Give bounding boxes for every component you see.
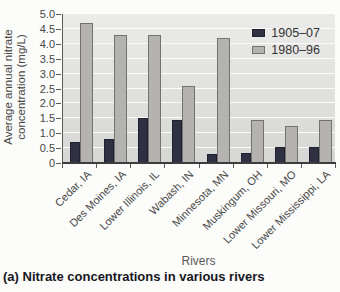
- bar-series-0-cat-3: [172, 120, 182, 163]
- legend-swatch-1: [252, 46, 265, 54]
- y-tick-mark: [56, 133, 61, 134]
- x-tick-label-text: Muskingum, OH: [200, 168, 264, 232]
- x-tick-mark: [199, 164, 200, 168]
- legend: 1905–071980–96: [252, 26, 320, 60]
- x-tick-mark: [96, 164, 97, 168]
- plot-area: 1905–071980–96: [62, 14, 335, 163]
- y-tick-label: 4.0: [0, 38, 55, 50]
- y-tick-mark: [56, 44, 61, 45]
- bar-series-0-cat-6: [275, 147, 285, 163]
- bar-series-1-cat-0: [80, 23, 93, 163]
- y-tick-label: 1.0: [0, 127, 55, 139]
- x-tick-mark: [62, 164, 63, 168]
- bar-series-0-cat-0: [70, 142, 80, 163]
- legend-item-0: 1905–07: [252, 26, 320, 40]
- x-tick-mark: [267, 164, 268, 168]
- bar-series-0-cat-1: [104, 139, 114, 163]
- y-tick-mark: [56, 29, 61, 30]
- y-tick-label: 3.5: [0, 53, 55, 65]
- legend-label-1: 1980–96: [271, 43, 320, 57]
- bar-series-1-cat-1: [114, 35, 127, 163]
- y-axis-tick-labels: 00.51.01.52.02.53.03.54.04.55.0: [0, 14, 55, 163]
- bar-series-0-cat-7: [309, 147, 319, 163]
- y-tick-label: 0.5: [0, 142, 55, 154]
- legend-item-1: 1980–96: [252, 43, 320, 57]
- y-tick-label: 4.5: [0, 23, 55, 35]
- gridline: [62, 102, 335, 103]
- x-axis-title: Rivers: [62, 254, 335, 268]
- bar-series-1-cat-3: [182, 86, 195, 163]
- y-tick-mark: [56, 103, 61, 104]
- gridline: [62, 73, 335, 74]
- y-tick-mark: [56, 118, 61, 119]
- legend-label-0: 1905–07: [271, 26, 320, 40]
- y-tick-mark: [56, 59, 61, 60]
- gridline: [62, 13, 335, 14]
- gridline: [62, 117, 335, 118]
- y-tick-mark: [56, 148, 61, 149]
- x-tick-mark: [164, 164, 165, 168]
- figure-panel: Average annual nitrate concentration (mg…: [0, 0, 340, 292]
- bar-series-1-cat-5: [251, 120, 264, 163]
- y-axis-line: [62, 14, 63, 163]
- y-tick-mark: [56, 14, 61, 15]
- y-tick-label: 2.0: [0, 97, 55, 109]
- x-tick-mark: [130, 164, 131, 168]
- y-tick-mark: [56, 163, 61, 164]
- bar-series-1-cat-7: [319, 120, 332, 163]
- gridline: [62, 88, 335, 89]
- x-tick-mark: [335, 164, 336, 168]
- y-tick-label: 1.5: [0, 112, 55, 124]
- bar-series-1-cat-6: [285, 126, 298, 163]
- y-tick-mark: [56, 74, 61, 75]
- y-tick-label: 3.0: [0, 68, 55, 80]
- y-tick-label: 0: [0, 157, 55, 169]
- legend-swatch-0: [252, 29, 265, 37]
- y-tick-label: 2.5: [0, 83, 55, 95]
- y-tick-mark: [56, 89, 61, 90]
- y-tick-label: 5.0: [0, 8, 55, 20]
- bar-series-1-cat-4: [217, 38, 230, 163]
- x-tick-mark: [301, 164, 302, 168]
- x-tick-label-text: Lower Illinois, IL: [97, 168, 161, 232]
- bar-series-1-cat-2: [148, 35, 161, 163]
- x-tick-mark: [233, 164, 234, 168]
- nitrate-bar-chart: Average annual nitrate concentration (mg…: [0, 0, 340, 292]
- bar-series-0-cat-2: [138, 118, 148, 163]
- figure-caption: (a) Nitrate concentrations in various ri…: [3, 269, 265, 284]
